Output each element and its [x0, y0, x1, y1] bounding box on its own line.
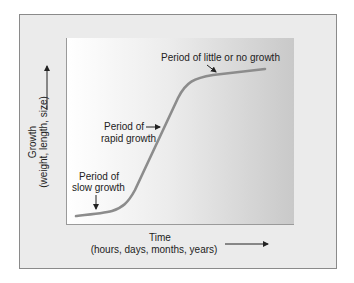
- annotation-plateau: Period of little or no growth: [161, 52, 280, 63]
- y-axis-title: Growth: [27, 96, 38, 188]
- annotation-rapid-line1: Period of: [104, 121, 144, 132]
- plateau-pointer: [207, 65, 216, 72]
- annotation-slow-line2: slow growth: [72, 182, 125, 193]
- annotation-rapid-line2: rapid growth: [101, 133, 156, 144]
- x-axis-subtitle: (hours, days, months, years): [86, 244, 222, 255]
- y-axis-subtitle: (weight, length, size): [38, 96, 49, 188]
- x-axis-title: Time: [140, 232, 180, 243]
- annotation-slow-line1: Period of: [79, 171, 119, 182]
